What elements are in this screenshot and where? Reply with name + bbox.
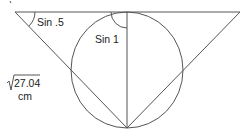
label-sin-half: Sin .5 [37, 16, 64, 28]
corner-tick [10, 1, 11, 3]
angle-arc-top [111, 12, 127, 28]
angle-arc-left [29, 12, 35, 26]
geometry-diagram: Sin .5 Sin 1 27.04 cm [0, 0, 246, 137]
label-length-unit: cm [18, 90, 32, 102]
label-sin-one: Sin 1 [95, 33, 119, 45]
label-length-value: 27.04 [14, 77, 40, 89]
